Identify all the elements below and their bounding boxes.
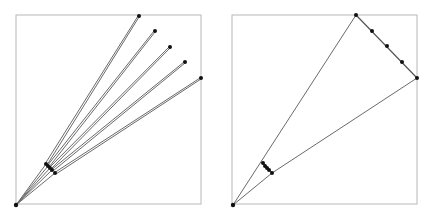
origin-dot	[231, 203, 235, 207]
near-point-dot	[267, 168, 271, 172]
far-point-dot	[137, 14, 141, 18]
ray-origin-near	[16, 170, 52, 205]
far-point-dot	[354, 13, 358, 17]
ray-outer-bottom-ext	[272, 78, 417, 173]
ray-near-far	[51, 48, 170, 169]
ray-near-far	[53, 63, 185, 171]
ray-near-far	[47, 31, 154, 166]
far-point-dot	[153, 29, 157, 33]
far-point-dot	[168, 45, 172, 49]
ray-near-far	[49, 32, 155, 167]
far-point-dot	[400, 60, 404, 64]
far-point-dot	[183, 60, 187, 64]
ray-outer-bottom	[233, 173, 272, 205]
panel-frame	[16, 15, 201, 204]
panel-frame	[232, 15, 417, 204]
near-point-dot	[50, 168, 54, 172]
right-panel	[231, 13, 419, 207]
far-point-dot	[415, 76, 419, 80]
ray-near-far	[51, 62, 184, 170]
ray-near-far	[45, 16, 138, 164]
left-panel	[14, 14, 203, 207]
far-point-dot	[199, 76, 203, 80]
near-point-dot	[270, 171, 274, 175]
near-point-dot	[53, 171, 57, 175]
far-point-dot	[370, 29, 374, 33]
far-point-dot	[385, 44, 389, 48]
diagram-figure	[0, 0, 432, 218]
origin-dot	[14, 203, 18, 207]
ray-outer-top	[233, 15, 356, 205]
diagram-canvas	[0, 0, 432, 218]
